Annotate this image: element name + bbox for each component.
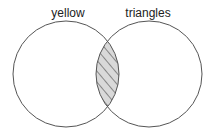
intersection-region — [96, 21, 202, 127]
set-label-triangles: triangles — [125, 6, 170, 20]
set-label-yellow: yellow — [51, 6, 85, 20]
venn-diagram: yellow triangles — [0, 0, 208, 138]
